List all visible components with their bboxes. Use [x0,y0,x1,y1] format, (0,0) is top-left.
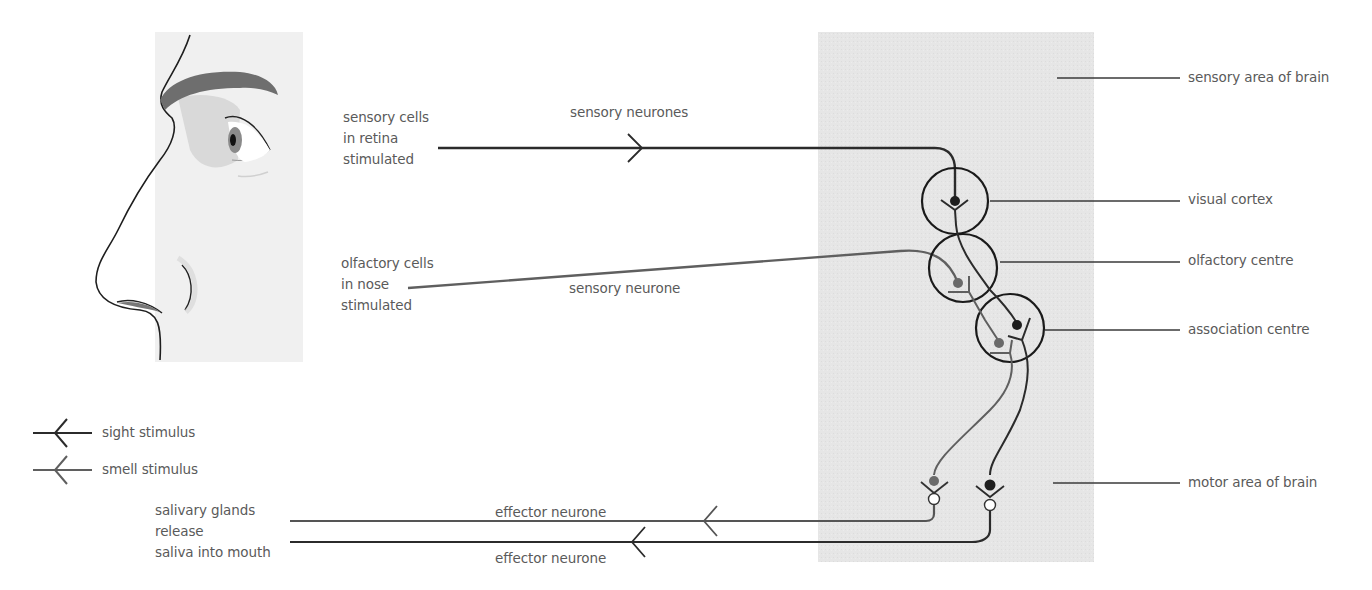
olfactory-centre-label: olfactory centre [1188,250,1293,271]
motor-area-label: motor area of brain [1188,472,1317,493]
face-illustration [96,32,303,362]
legend-smell: smell stimulus [102,459,198,480]
legend-sight: sight stimulus [102,422,195,443]
association-centre-label: association centre [1188,319,1310,340]
sight-line-2: in retina [343,128,429,149]
sensory-neurone-label: sensory neurone [569,278,680,299]
smell-line-3: stimulated [341,295,434,316]
smell-line-2: in nose [341,274,434,295]
brain-area [818,32,1094,562]
sight-line-1: sensory cells [343,107,429,128]
sensory-area-label: sensory area of brain [1188,67,1329,88]
sensory-neurones-label: sensory neurones [570,102,688,123]
response-label: salivary glands release saliva into mout… [155,500,271,563]
visual-cortex-label: visual cortex [1188,189,1273,210]
sight-line-3: stimulated [343,149,429,170]
effector-neurone-label-2: effector neurone [495,548,606,569]
sight-stimulus-label: sensory cells in retina stimulated [343,107,429,170]
smell-stimulus-label: olfactory cells in nose stimulated [341,253,434,316]
response-line-1: salivary glands [155,500,271,521]
effector-neurone-label-1: effector neurone [495,502,606,523]
reflex-pathway-diagram: sensory cells in retina stimulated senso… [0,0,1372,590]
smell-line-1: olfactory cells [341,253,434,274]
response-line-3: saliva into mouth [155,542,271,563]
legend-arrows [33,419,92,484]
response-line-2: release [155,521,271,542]
